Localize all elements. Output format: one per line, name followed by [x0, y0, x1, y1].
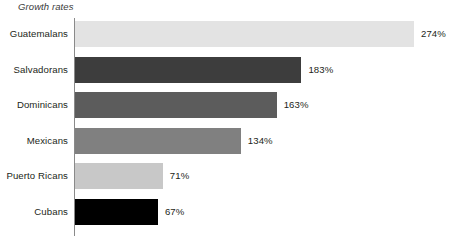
bar-value-label: 67%: [165, 206, 185, 217]
bar-row: Cubans67%: [0, 199, 458, 225]
bar-rect: [75, 199, 158, 225]
bar-category-label: Mexicans: [0, 135, 68, 146]
chart-title: Growth rates: [18, 1, 74, 12]
bar-category-label: Salvadorans: [0, 64, 68, 75]
bar-rect: [75, 21, 414, 47]
growth-rates-bar-chart: Growth rates Guatemalans274%Salvadorans1…: [0, 0, 458, 241]
bar-rect: [75, 163, 163, 189]
bar-row: Dominicans163%: [0, 92, 458, 118]
bar-row: Salvadorans183%: [0, 57, 458, 83]
bar-value-label: 163%: [284, 99, 309, 110]
bar-category-label: Cubans: [0, 206, 68, 217]
bar-row: Puerto Ricans71%: [0, 163, 458, 189]
bar-value-label: 134%: [248, 135, 273, 146]
bar-value-label: 71%: [170, 170, 190, 181]
bar-rect: [75, 57, 301, 83]
bar-value-label: 274%: [421, 28, 446, 39]
bar-rect: [75, 128, 241, 154]
bar-category-label: Puerto Ricans: [0, 170, 68, 181]
bar-category-label: Dominicans: [0, 99, 68, 110]
bar-row: Guatemalans274%: [0, 21, 458, 47]
bar-category-label: Guatemalans: [0, 28, 68, 39]
bar-rect: [75, 92, 277, 118]
bar-value-label: 183%: [308, 64, 333, 75]
bar-row: Mexicans134%: [0, 128, 458, 154]
plot-area: Guatemalans274%Salvadorans183%Dominicans…: [0, 17, 458, 238]
